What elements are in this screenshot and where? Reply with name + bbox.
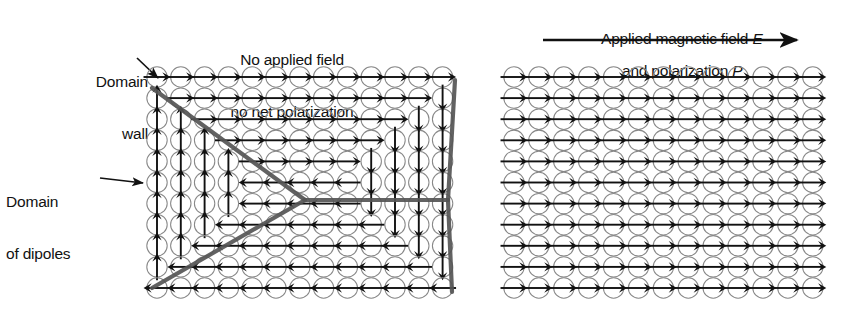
dipole-right <box>575 236 602 256</box>
dipole-right <box>429 67 456 87</box>
dipole-right <box>625 172 652 192</box>
dipole-right <box>334 130 361 150</box>
dipole-up <box>171 232 191 259</box>
dipole-right <box>550 67 577 87</box>
dipole-left <box>286 236 313 256</box>
dipole-right <box>358 130 385 150</box>
dipole-right <box>550 130 577 150</box>
dipole-right <box>525 215 552 235</box>
dipole-right <box>799 67 826 87</box>
dipole-right <box>700 88 727 108</box>
upper-right-wall <box>448 80 455 200</box>
dipole-left <box>334 278 361 298</box>
dipole-right <box>286 67 313 87</box>
dipole-right <box>501 193 528 213</box>
dipole-right <box>625 257 652 277</box>
dipole-right <box>675 193 702 213</box>
dipole-right <box>799 88 826 108</box>
dipole-right <box>625 215 652 235</box>
dipole-right <box>600 67 627 87</box>
dipole-right <box>750 257 777 277</box>
dipole-right <box>725 151 752 171</box>
dipole-right <box>382 109 409 129</box>
dipole-right <box>675 109 702 129</box>
dipole-right <box>239 88 266 108</box>
dipole-right <box>774 257 801 277</box>
dipole-right <box>501 257 528 277</box>
dipole-right <box>263 109 290 129</box>
dipole-right <box>799 278 826 298</box>
dipole-right <box>575 88 602 108</box>
dipole-right <box>358 88 385 108</box>
dipole-right <box>501 67 528 87</box>
dipole-right <box>625 151 652 171</box>
dipole-right <box>215 88 242 108</box>
dipole-right <box>600 130 627 150</box>
dipole-right <box>750 67 777 87</box>
dipole-right <box>774 151 801 171</box>
dipole-right <box>774 172 801 192</box>
right-panel-dipole-grid <box>501 67 827 298</box>
dipole-right <box>525 172 552 192</box>
dipole-left <box>191 278 218 298</box>
dipole-right <box>575 151 602 171</box>
dipole-left <box>239 172 266 192</box>
dipole-right <box>750 109 777 129</box>
dipole-right <box>239 109 266 129</box>
dipole-right <box>525 193 552 213</box>
dipole-right <box>575 257 602 277</box>
dipole-left <box>239 236 266 256</box>
dipole-right <box>700 151 727 171</box>
dipole-right <box>625 130 652 150</box>
dipole-right <box>239 130 266 150</box>
dipole-down <box>385 211 405 238</box>
dipole-right <box>650 130 677 150</box>
dipole-right <box>700 236 727 256</box>
dipole-right <box>675 88 702 108</box>
dipole-right <box>334 151 361 171</box>
dipole-right <box>525 88 552 108</box>
dipole-right <box>625 193 652 213</box>
dipole-right <box>750 151 777 171</box>
dipole-left <box>310 278 337 298</box>
dipole-left <box>263 172 290 192</box>
dipole-left <box>215 215 242 235</box>
dipole-left <box>334 257 361 277</box>
dipole-right <box>525 151 552 171</box>
dipole-right <box>575 172 602 192</box>
dipole-right <box>650 172 677 192</box>
dipole-right <box>525 236 552 256</box>
dipole-right <box>700 278 727 298</box>
dipole-right <box>286 130 313 150</box>
dipole-left <box>358 236 385 256</box>
dipole-right <box>725 109 752 129</box>
dipole-right <box>310 130 337 150</box>
dipole-right <box>382 67 409 87</box>
dipole-right <box>575 109 602 129</box>
dipole-right <box>774 278 801 298</box>
dipole-right <box>310 109 337 129</box>
dipole-right <box>725 257 752 277</box>
dipole-right <box>675 151 702 171</box>
dipole-right <box>501 88 528 108</box>
dipole-right <box>600 88 627 108</box>
dipole-right <box>263 67 290 87</box>
dipole-right <box>725 193 752 213</box>
dipole-left <box>239 278 266 298</box>
dipole-right <box>575 67 602 87</box>
dipole-left <box>263 278 290 298</box>
dipole-right <box>600 278 627 298</box>
dipole-left <box>215 257 242 277</box>
dipole-right <box>382 88 409 108</box>
dipole-right <box>650 193 677 213</box>
dipole-right <box>700 109 727 129</box>
dipole-right <box>625 278 652 298</box>
dipole-right <box>700 257 727 277</box>
dipole-right <box>358 67 385 87</box>
dipole-right <box>358 109 385 129</box>
dipole-right <box>167 88 194 108</box>
dipole-right <box>650 88 677 108</box>
dipole-right <box>239 67 266 87</box>
dipole-left <box>382 257 409 277</box>
dipole-right <box>600 215 627 235</box>
